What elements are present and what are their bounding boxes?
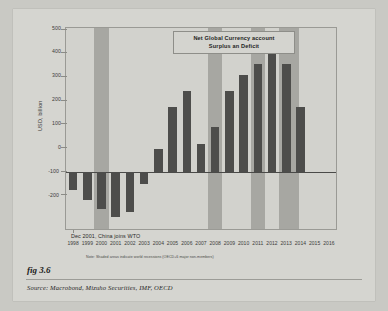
x-tick-label-2014: 2014 [295, 240, 306, 246]
x-tick-label-2015: 2015 [309, 240, 320, 246]
bar-2002 [126, 172, 135, 212]
bar-1999 [83, 172, 92, 201]
x-tick-label-1999: 1999 [82, 240, 93, 246]
chart-note: Note: Shaded areas indicate world recess… [86, 255, 214, 259]
y-tick-mark [61, 52, 67, 53]
bar-1998 [69, 172, 78, 191]
figure-source: Source: Macrobond, Mizuho Securities, IM… [27, 284, 173, 291]
bar-2004 [154, 149, 163, 172]
y-tick-mark [61, 171, 67, 172]
china-wto-annotation: Dec 2001, China joins WTO [71, 233, 140, 239]
x-tick-label-1998: 1998 [67, 240, 78, 246]
x-tick-label-2003: 2003 [138, 240, 149, 246]
zero-axis-line [66, 172, 336, 173]
y-tick-label-500: 500 [43, 25, 61, 31]
chart-title-line-1: Net Global Currency account [176, 35, 292, 43]
bar-2009 [225, 91, 234, 171]
bar-2001 [111, 172, 120, 218]
caption-divider [26, 279, 362, 280]
y-tick-label-300: 300 [43, 72, 61, 78]
x-tick-label-2002: 2002 [124, 240, 135, 246]
y-tick-mark [61, 147, 67, 148]
y-tick-label-0: 0 [43, 144, 61, 150]
bar-2003 [140, 172, 149, 185]
y-tick-mark [61, 76, 67, 77]
y-tick-label-100: 100 [43, 120, 61, 126]
y-tick-label-400: 400 [43, 48, 61, 54]
y-tick-label-200: 200 [43, 96, 61, 102]
bar-2006 [183, 91, 192, 171]
y-tick-label-minus200: -200 [41, 192, 59, 198]
bar-2010 [239, 75, 248, 171]
bar-2007 [197, 144, 206, 171]
chart-title-line-2: Surplus an Deficit [176, 43, 292, 51]
bar-2005 [168, 107, 177, 172]
x-tick-label-2008: 2008 [210, 240, 221, 246]
y-tick-mark [61, 100, 67, 101]
x-tick-label-2006: 2006 [181, 240, 192, 246]
figure-caption: fig 3.6 [27, 265, 51, 275]
plot-area [65, 27, 337, 230]
x-tick-label-2016: 2016 [323, 240, 334, 246]
bar-2013 [282, 64, 291, 172]
y-tick-mark [61, 123, 67, 124]
y-tick-label-minus100: -100 [41, 168, 59, 174]
bar-2008 [211, 127, 220, 172]
x-tick-label-2012: 2012 [266, 240, 277, 246]
x-tick-label-2001: 2001 [110, 240, 121, 246]
x-tick-label-2010: 2010 [238, 240, 249, 246]
y-axis-title: USD, billion [37, 100, 43, 131]
y-tick-mark [61, 194, 67, 195]
x-tick-label-2005: 2005 [167, 240, 178, 246]
x-tick-label-2009: 2009 [224, 240, 235, 246]
x-tick-mark [73, 230, 74, 233]
x-tick-label-2011: 2011 [252, 240, 263, 246]
x-tick-label-2013: 2013 [281, 240, 292, 246]
bar-2000 [97, 172, 106, 209]
x-tick-label-2000: 2000 [96, 240, 107, 246]
bar-2012 [268, 54, 277, 172]
y-tick-mark [61, 29, 67, 30]
bar-2011 [254, 64, 263, 172]
book-page: USD, billion 500 400 300 200 100 0 -100 … [13, 9, 375, 301]
figure-3-6: USD, billion 500 400 300 200 100 0 -100 … [13, 9, 375, 301]
chart-title-box: Net Global Currency account Surplus an D… [173, 31, 295, 54]
scanned-page-background: USD, billion 500 400 300 200 100 0 -100 … [0, 0, 388, 311]
x-tick-label-2007: 2007 [195, 240, 206, 246]
x-tick-label-2004: 2004 [153, 240, 164, 246]
bar-2014 [296, 107, 305, 172]
